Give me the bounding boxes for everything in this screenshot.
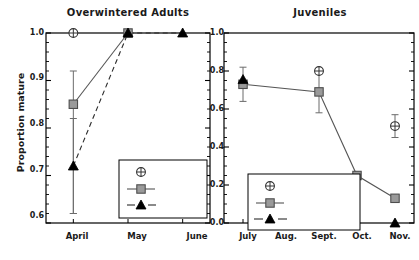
marker-square <box>315 88 323 96</box>
marker-square <box>266 199 274 207</box>
left-legend <box>119 160 207 218</box>
plot-svg <box>0 0 419 260</box>
marker-square <box>391 194 399 202</box>
right-legend-frame <box>248 174 360 230</box>
series-line-peak <box>73 33 128 104</box>
marker-square <box>69 100 77 108</box>
figure-container: Overwintered Adults Juveniles Proportion… <box>0 0 419 260</box>
marker-square <box>137 185 145 193</box>
marker-triangle <box>68 161 78 170</box>
series-line-decline <box>73 33 182 166</box>
right-legend <box>248 174 360 230</box>
marker-triangle <box>238 75 248 84</box>
